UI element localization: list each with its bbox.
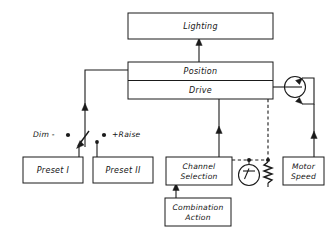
block-lighting[interactable]: Lighting — [128, 13, 273, 39]
contact-dot-raise-icon — [102, 133, 106, 137]
junction-dot-potentiometer — [266, 158, 270, 162]
motor-circle-symbol — [285, 77, 306, 105]
block-diagram: Lighting Position Drive Preset I Preset … — [0, 0, 332, 241]
contact-dot-dim-icon — [66, 133, 70, 137]
block-channel-selection-line2: Selection — [180, 172, 217, 181]
block-lighting-label: Lighting — [183, 22, 218, 31]
block-position-label: Position — [184, 67, 218, 76]
block-combination-action-line1: Combination — [172, 203, 223, 212]
block-preset-one[interactable]: Preset I — [23, 157, 83, 183]
block-motor-speed-line1: Motor — [292, 162, 316, 171]
block-preset-one-label: Preset I — [37, 166, 70, 175]
block-channel-selection[interactable]: Channel Selection — [166, 157, 232, 185]
annotation-dim-label: Dim - — [33, 130, 55, 139]
block-combination-action[interactable]: Combination Action — [165, 198, 231, 226]
block-preset-two-label: Preset II — [105, 166, 141, 175]
arrowhead-to-drive-from-channel — [216, 126, 222, 134]
block-drive-label: Drive — [189, 86, 212, 95]
block-combination-action-line2: Action — [184, 213, 210, 222]
diagram-canvas: Lighting Position Drive Preset I Preset … — [0, 0, 332, 241]
contact-dot-preset-two — [95, 140, 99, 144]
block-preset-two[interactable]: Preset II — [93, 157, 153, 183]
meter-gauge-symbol — [239, 165, 260, 186]
arrowhead-switch-pivot — [77, 141, 85, 149]
arrowhead-to-position-branch — [82, 103, 88, 111]
block-position-drive[interactable]: Position Drive — [128, 62, 273, 99]
block-channel-selection-line1: Channel — [183, 162, 217, 171]
block-motor-speed-line2: Speed — [291, 172, 316, 181]
block-motor-speed[interactable]: Motor Speed — [283, 157, 324, 185]
annotation-raise-label: +Raise — [112, 130, 141, 139]
potentiometer-zigzag-symbol — [264, 162, 272, 187]
arrowhead-to-motor-loop — [311, 131, 317, 139]
